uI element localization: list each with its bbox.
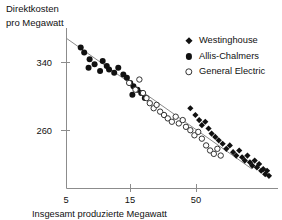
legend-item-westinghouse[interactable]: Westinghouse — [183, 33, 265, 49]
data-point-westinghouse — [205, 125, 211, 131]
x-tick-label-15: 15 — [125, 195, 135, 205]
data-point-general-electric — [147, 100, 152, 105]
data-point-general-electric — [169, 119, 174, 124]
data-point-allis-chalmers — [106, 66, 112, 72]
data-point-westinghouse — [196, 117, 202, 123]
data-point-allis-chalmers — [92, 61, 98, 67]
data-point-general-electric — [137, 77, 142, 82]
data-point-general-electric — [203, 143, 208, 148]
data-point-general-electric — [218, 153, 223, 158]
data-point-allis-chalmers — [81, 49, 87, 55]
data-point-general-electric — [215, 146, 220, 151]
data-point-allis-chalmers — [111, 70, 117, 76]
data-point-allis-chalmers — [97, 68, 103, 74]
data-point-allis-chalmers — [115, 65, 121, 71]
data-point-allis-chalmers — [87, 56, 93, 62]
data-point-general-electric — [133, 87, 138, 92]
legend-item-general-electric[interactable]: General Electric — [183, 64, 265, 80]
chart-legend: Westinghouse Allis-Chalmers General Elec… — [183, 33, 265, 80]
axis-tick-labels: 340 260 5 15 50 — [36, 58, 201, 205]
data-point-westinghouse — [236, 147, 242, 153]
data-point-general-electric — [199, 136, 204, 141]
filled-circle-icon — [183, 51, 194, 62]
open-circle-icon — [183, 66, 194, 77]
data-point-westinghouse — [192, 112, 198, 118]
filled-diamond-icon — [183, 35, 194, 46]
chart-container: Direktkosten pro Megawatt 340 260 5 15 5… — [0, 0, 282, 220]
data-point-general-electric — [173, 114, 178, 119]
data-point-general-electric — [196, 129, 201, 134]
data-point-allis-chalmers — [100, 58, 106, 64]
data-point-westinghouse — [244, 152, 250, 158]
legend-label-general-electric: General Electric — [199, 64, 265, 80]
data-point-general-electric — [211, 151, 216, 156]
data-point-general-electric — [144, 95, 149, 100]
data-point-allis-chalmers — [78, 44, 84, 50]
data-point-general-electric — [140, 90, 145, 95]
data-point-general-electric — [188, 128, 193, 133]
y-tick-label-260: 260 — [36, 126, 52, 136]
y-tick-label-340: 340 — [36, 58, 52, 68]
data-point-allis-chalmers — [86, 65, 92, 71]
x-tick-label-50: 50 — [191, 195, 201, 205]
x-tick-label-5: 5 — [63, 195, 68, 205]
data-point-westinghouse — [187, 105, 193, 111]
data-point-general-electric — [126, 80, 131, 85]
legend-item-allis-chalmers[interactable]: Allis-Chalmers — [183, 49, 265, 65]
legend-label-allis-chalmers: Allis-Chalmers — [199, 49, 259, 65]
legend-label-westinghouse: Westinghouse — [199, 33, 258, 49]
data-point-general-electric — [154, 102, 159, 107]
x-axis-caption: Insgesamt produzierte Megawatt — [32, 209, 167, 220]
data-point-general-electric — [180, 117, 185, 122]
